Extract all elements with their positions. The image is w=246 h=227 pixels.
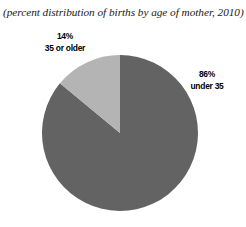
callout-under-35: 86% under 35	[174, 68, 239, 91]
pie-chart-figure: (percent distribution of births by age o…	[0, 0, 246, 227]
callout-35-or-older-percent: 14%	[24, 30, 107, 42]
callout-under-35-percent: 86%	[174, 68, 239, 80]
callout-35-or-older-group: 35 or older	[24, 42, 107, 54]
callout-35-or-older: 14% 35 or older	[24, 30, 107, 53]
callout-under-35-group: under 35	[174, 80, 239, 92]
chart-subtitle: (percent distribution of births by age o…	[3, 6, 246, 19]
